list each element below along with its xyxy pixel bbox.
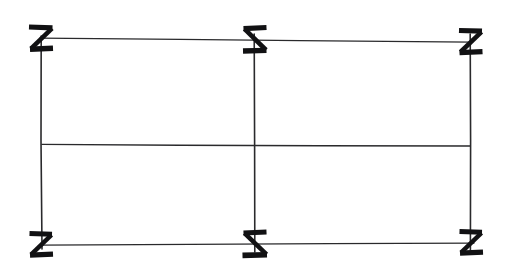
diagram-svg [0,0,510,269]
figure-canvas [0,0,510,269]
center-divider-line [254,34,255,252]
